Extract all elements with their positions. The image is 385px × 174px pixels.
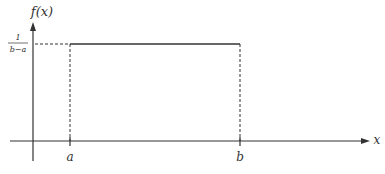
y-axis-label: f(x) [30, 4, 53, 19]
x-axis-arrow-icon [361, 138, 370, 144]
tick-label-a: a [66, 150, 73, 164]
tick-label-b: b [236, 150, 244, 164]
density-label: 1 b−a [8, 33, 28, 54]
y-axis-arrow-icon [30, 22, 36, 31]
x-axis: x [10, 133, 381, 147]
x-axis-label: x [374, 133, 381, 147]
density-numerator: 1 [15, 33, 20, 42]
density-denominator: b−a [10, 45, 27, 54]
uniform-pdf-diagram: f(x) x 1 b−a a b [0, 0, 385, 174]
y-axis: f(x) [30, 4, 53, 161]
